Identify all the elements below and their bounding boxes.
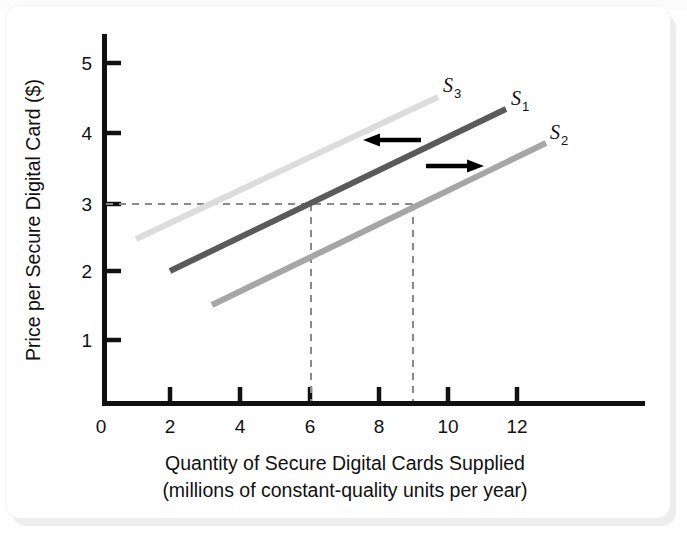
supply-curves-group <box>136 97 546 305</box>
x-tick-label-8: 8 <box>374 416 385 437</box>
x-tick-labels: 0 2 4 6 8 10 12 <box>96 416 528 437</box>
x-tick-marks <box>170 387 517 403</box>
leftward-shift-arrow <box>363 134 421 147</box>
rightward-arrow-head <box>467 160 484 173</box>
y-tick-label-3: 3 <box>81 194 92 215</box>
x-axis-title-line1: Quantity of Secure Digital Cards Supplie… <box>165 452 525 474</box>
x-tick-label-10: 10 <box>437 416 458 437</box>
curve-label-s1-text: S <box>511 87 521 109</box>
x-axis-title-line2: (millions of constant-quality units per … <box>162 479 527 501</box>
y-tick-label-4: 4 <box>81 123 92 144</box>
chart-canvas: 5 4 3 2 1 0 2 4 6 8 10 12 <box>0 0 687 536</box>
x-tick-label-6: 6 <box>305 416 316 437</box>
curve-label-s3: S3 <box>443 74 461 101</box>
x-tick-label-0: 0 <box>96 416 107 437</box>
y-axis-title: Price per Secure Digital Card ($) <box>22 79 44 361</box>
leftward-arrow-head <box>363 134 380 147</box>
curve-label-s2-subscript: 2 <box>561 133 568 148</box>
x-tick-label-12: 12 <box>506 416 527 437</box>
y-tick-label-5: 5 <box>81 53 92 74</box>
x-tick-label-4: 4 <box>235 416 246 437</box>
curve-label-s1: S1 <box>511 87 529 114</box>
curve-label-s3-subscript: 3 <box>454 86 461 101</box>
y-tick-labels: 5 4 3 2 1 <box>81 53 92 351</box>
y-tick-label-2: 2 <box>81 261 92 282</box>
curve-label-s1-subscript: 1 <box>522 99 529 114</box>
rightward-shift-arrow <box>426 160 484 173</box>
curve-label-s2-text: S <box>550 121 560 143</box>
curve-label-s2: S2 <box>550 121 568 148</box>
curve-label-s3-text: S <box>443 74 453 96</box>
x-tick-label-2: 2 <box>165 416 176 437</box>
supply-shift-figure: 5 4 3 2 1 0 2 4 6 8 10 12 <box>0 0 687 536</box>
y-tick-label-1: 1 <box>81 330 92 351</box>
